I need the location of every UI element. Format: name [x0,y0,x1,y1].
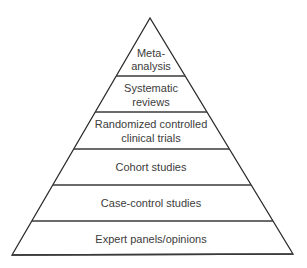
level-cohort-studies: Cohort studies [116,161,187,173]
level-label-line: Systematic [124,82,178,94]
level-expert-panels-opinions: Expert panels/opinions [95,233,207,245]
level-label-line: Case-control studies [101,197,202,209]
level-label-line: Randomized controlled [95,118,208,130]
level-label-line: reviews [132,96,170,108]
evidence-pyramid: Meta- analysis Systematic reviews Random… [0,0,307,268]
level-meta-analysis: Meta- analysis [131,47,171,72]
level-label-line: clinical trials [121,132,181,144]
level-label-line: Expert panels/opinions [95,233,207,245]
level-systematic-reviews: Systematic reviews [124,82,178,108]
level-label-line: Cohort studies [116,161,187,173]
level-case-control-studies: Case-control studies [101,197,202,209]
level-label-line: Meta- [137,47,165,59]
level-label-line: analysis [131,60,171,72]
level-randomized-controlled-trials: Randomized controlled clinical trials [95,118,208,144]
pyramid-base [12,254,293,255]
